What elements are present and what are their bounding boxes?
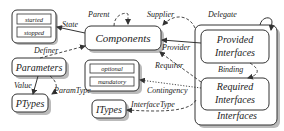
- itypes-label: ITypes: [95, 104, 122, 115]
- required-interfaces-node: Required Interfaces: [201, 78, 269, 110]
- state-enum-node: started stopped: [12, 10, 58, 45]
- state-edge-label: State: [62, 20, 78, 29]
- provided-interfaces-node: Provided Interfaces: [201, 30, 269, 63]
- required-line1: Required: [216, 81, 254, 92]
- components-node: Components: [85, 26, 164, 53]
- ptypes-label: PTypes: [15, 98, 45, 109]
- required-line2: Interfaces: [214, 94, 255, 105]
- contingency-enum-node: optional mandatory: [85, 60, 142, 94]
- supplier-edge-label: Supplier: [147, 10, 175, 19]
- requirer-edge-label: Requirer: [154, 61, 184, 70]
- contingency-item-optional: optional: [101, 65, 123, 72]
- components-label: Components: [96, 32, 151, 44]
- parameters-node: Parameters: [12, 58, 69, 79]
- binding-edge-label: Binding: [218, 65, 243, 74]
- parent-edge: [114, 13, 128, 26]
- itypes-node: ITypes: [92, 100, 129, 121]
- state-item-stopped: stopped: [24, 29, 45, 36]
- provided-line1: Provided: [216, 34, 254, 45]
- parent-edge-label: Parent: [87, 10, 110, 19]
- state-item-started: started: [25, 16, 44, 23]
- contingency-item-mandatory: mandatory: [98, 78, 126, 85]
- provided-line2: Interfaces: [214, 47, 255, 58]
- definer-edge-label: Definer: [33, 46, 59, 55]
- metamodel-diagram: Interfaces Provided Interfaces Required …: [0, 0, 284, 131]
- delegate-edge-label: Delegate: [207, 10, 237, 19]
- param-type-edge-label: ParamType: [53, 86, 91, 95]
- parameters-label: Parameters: [15, 62, 63, 73]
- interfaces-label: Interfaces: [216, 110, 257, 121]
- provider-edge-label: Provider: [161, 43, 191, 52]
- ptypes-node: PTypes: [12, 94, 51, 115]
- interface-type-edge-label: InterfaceType: [130, 100, 175, 109]
- contingency-edge-label: Contingency: [147, 86, 188, 95]
- value-edge-label: Value: [14, 81, 32, 90]
